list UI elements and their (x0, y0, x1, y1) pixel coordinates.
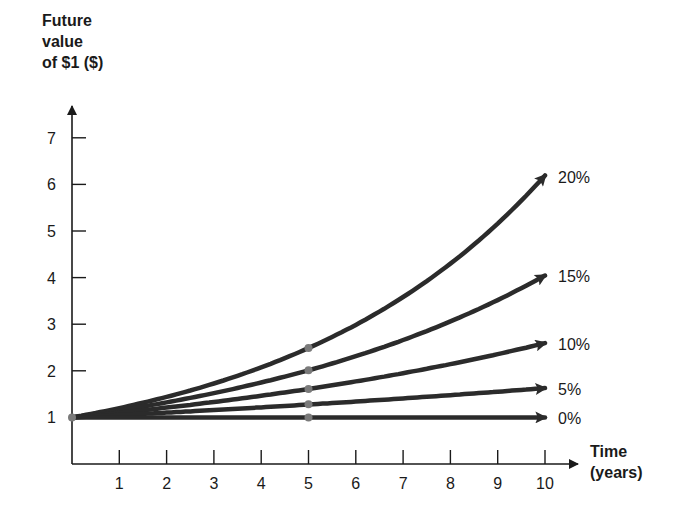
series-line-20pct (72, 176, 545, 418)
x-tick-label: 2 (162, 475, 171, 492)
series-label-15pct: 15% (558, 268, 590, 285)
series-label-20pct: 20% (558, 169, 590, 186)
y-tick-label: 3 (47, 316, 56, 333)
y-tick-label: 6 (47, 176, 56, 193)
y-tick-label: 7 (47, 130, 56, 147)
y-tick-label: 2 (47, 363, 56, 380)
data-point-marker (305, 366, 313, 374)
series-label-5pct: 5% (558, 381, 581, 398)
data-point-marker (305, 385, 313, 393)
x-tick-label: 9 (493, 475, 502, 492)
data-point-marker (68, 413, 76, 421)
series-labels: 20%15%10%5%0% (558, 169, 590, 428)
y-tick-label: 5 (47, 223, 56, 240)
x-tick-label: 10 (536, 475, 554, 492)
x-tick-label: 1 (115, 475, 124, 492)
x-tick-label: 6 (351, 475, 360, 492)
x-tick-label: 4 (257, 475, 266, 492)
series-label-10pct: 10% (558, 336, 590, 353)
data-point-marker (305, 400, 313, 408)
y-tick-label: 4 (47, 270, 56, 287)
data-point-marker (305, 413, 313, 421)
series-label-0pct: 0% (558, 410, 581, 427)
y-tick-label: 1 (47, 409, 56, 426)
x-tick-label: 7 (399, 475, 408, 492)
x-tick-label: 5 (304, 475, 313, 492)
x-tick-label: 8 (446, 475, 455, 492)
x-tick-label: 3 (209, 475, 218, 492)
data-point-marker (305, 344, 313, 352)
chart-plot-area: 123456712345678910 20%15%10%5%0% (0, 0, 688, 521)
series-lines (72, 176, 545, 418)
